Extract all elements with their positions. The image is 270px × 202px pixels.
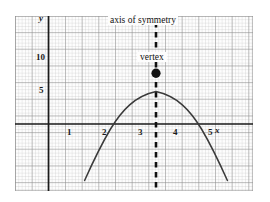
- x-tick-label-3: 3: [138, 128, 143, 137]
- x-tick-label-1: 1: [67, 128, 72, 137]
- axis-of-symmetry-label: axis of symmetry: [108, 15, 178, 25]
- y-tick-label-5: 5: [39, 86, 44, 95]
- vertex-point: [151, 69, 160, 78]
- plot-area: y x 10 5 1 2 3 4 5 axis of symmetry vert…: [15, 16, 253, 191]
- curve-layer: [15, 16, 253, 191]
- parabola-svg: [15, 16, 253, 191]
- y-tick-label-10: 10: [36, 53, 45, 62]
- vertex-label: vertex: [137, 52, 167, 62]
- x-tick-label-5: 5: [208, 128, 213, 137]
- x-tick-label-2: 2: [102, 128, 107, 137]
- graph-figure: y x 10 5 1 2 3 4 5 axis of symmetry vert…: [0, 0, 270, 202]
- y-axis-label: y: [39, 14, 43, 23]
- x-tick-label-4: 4: [173, 128, 178, 137]
- x-axis-label: x: [215, 126, 220, 135]
